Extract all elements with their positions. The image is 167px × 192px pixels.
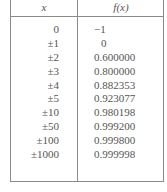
table-row: 0 −1 bbox=[11, 22, 163, 36]
table-row: ±1 0 bbox=[11, 36, 163, 50]
table-row: ±10 0.980198 bbox=[11, 105, 163, 119]
cell-x: ±1000 bbox=[31, 147, 59, 161]
header-x: x bbox=[11, 1, 77, 13]
cell-fx: 0.923077 bbox=[94, 91, 135, 105]
cell-fx: −1 bbox=[94, 22, 106, 36]
table-row: ±3 0.800000 bbox=[11, 64, 163, 78]
header-fx: f(x) bbox=[78, 1, 164, 13]
cell-fx: 0.999200 bbox=[94, 119, 135, 133]
cell-x: ±5 bbox=[47, 91, 59, 105]
cell-fx: 0.999998 bbox=[94, 147, 135, 161]
cell-x: ±100 bbox=[36, 133, 59, 147]
table-row: ±2 0.600000 bbox=[11, 50, 163, 64]
values-table: x f(x) 0 −1 ±1 0 ±2 0.600000 ±3 0.800000… bbox=[10, 0, 164, 182]
table-row: ±5 0.923077 bbox=[11, 91, 163, 105]
table-body: 0 −1 ±1 0 ±2 0.600000 ±3 0.800000 ±4 0.8… bbox=[11, 22, 163, 161]
cell-fx: 0.999800 bbox=[94, 133, 135, 147]
cell-fx: 0.800000 bbox=[94, 64, 135, 78]
cell-x: ±50 bbox=[42, 119, 59, 133]
cell-x: ±10 bbox=[42, 105, 59, 119]
cell-fx: 0 bbox=[101, 36, 107, 50]
table-row: ±50 0.999200 bbox=[11, 119, 163, 133]
cell-x: ±3 bbox=[47, 64, 59, 78]
cell-x: 0 bbox=[54, 22, 60, 36]
table-row: ±100 0.999800 bbox=[11, 133, 163, 147]
cell-fx: 0.882353 bbox=[94, 78, 135, 92]
cell-fx: 0.980198 bbox=[94, 105, 135, 119]
cell-x: ±2 bbox=[47, 50, 59, 64]
table-row: ±4 0.882353 bbox=[11, 78, 163, 92]
header-divider bbox=[11, 16, 163, 17]
cell-x: ±4 bbox=[47, 78, 59, 92]
cell-x: ±1 bbox=[47, 36, 59, 50]
cell-fx: 0.600000 bbox=[94, 50, 135, 64]
table-row: ±1000 0.999998 bbox=[11, 147, 163, 161]
